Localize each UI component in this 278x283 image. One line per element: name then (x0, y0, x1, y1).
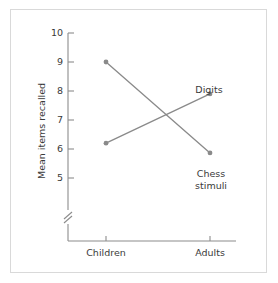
y-axis-title: Mean items recalled (36, 83, 47, 179)
y-tick-label-10: 10 (51, 27, 63, 38)
y-tick-label-6: 6 (57, 143, 63, 154)
series-label-chess-line2: stimuli (195, 180, 227, 191)
data-point-chess-children (104, 60, 109, 65)
y-tick-label-5: 5 (57, 172, 63, 183)
line-chart-plot: 10 9 8 7 6 5 Mean items recalled Childre… (0, 0, 278, 283)
y-tick-label-8: 8 (57, 85, 63, 96)
axis-break-icon (64, 212, 72, 223)
series-label-digits: Digits (195, 84, 222, 95)
y-tick-label-7: 7 (57, 114, 63, 125)
chart-figure: 10 9 8 7 6 5 Mean items recalled Childre… (0, 0, 278, 283)
data-point-chess-adults (208, 151, 213, 156)
series-label-chess-line1: Chess (197, 168, 225, 179)
x-label-adults: Adults (195, 247, 225, 258)
data-point-digits-children (104, 141, 109, 146)
series-line-chess-stimuli (106, 62, 210, 153)
y-tick-label-9: 9 (57, 56, 63, 67)
series-line-digits (106, 94, 210, 143)
x-label-children: Children (86, 247, 126, 258)
